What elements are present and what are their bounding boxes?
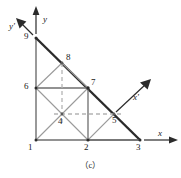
- node-dot-9: [35, 37, 38, 40]
- edge-8-7-diagonal: [62, 63, 88, 88]
- node-dot-1: [35, 139, 38, 142]
- node-label-5: 5: [112, 116, 117, 125]
- axis-label-yprime: y': [9, 22, 15, 31]
- node-label-3: 3: [136, 143, 141, 152]
- figure-caption: （c）: [0, 158, 181, 170]
- axis-label-xprime: x': [133, 93, 139, 102]
- node-dot-8: [61, 62, 64, 65]
- node-dot-6: [35, 87, 38, 90]
- node-label-1: 1: [28, 143, 33, 152]
- figure-container: 1 2 3 4 5 6 7 8 9 x y x' y' （c）: [0, 0, 181, 178]
- node-dot-4: [61, 113, 64, 116]
- node-label-9: 9: [24, 32, 29, 41]
- axis-xprime-line: [116, 84, 146, 112]
- node-label-6: 6: [24, 82, 29, 91]
- axis-x-arrowhead: [169, 137, 178, 144]
- node-label-7: 7: [91, 78, 96, 87]
- node-label-8: 8: [66, 53, 71, 62]
- axis-label-y: y: [43, 15, 47, 24]
- axis-label-x: x: [158, 129, 162, 138]
- axis-y-arrowhead: [33, 6, 40, 15]
- edge-6-8-diagonal: [36, 63, 62, 88]
- node-label-2: 2: [84, 143, 89, 152]
- node-label-4: 4: [58, 117, 63, 126]
- node-dot-7: [86, 86, 89, 89]
